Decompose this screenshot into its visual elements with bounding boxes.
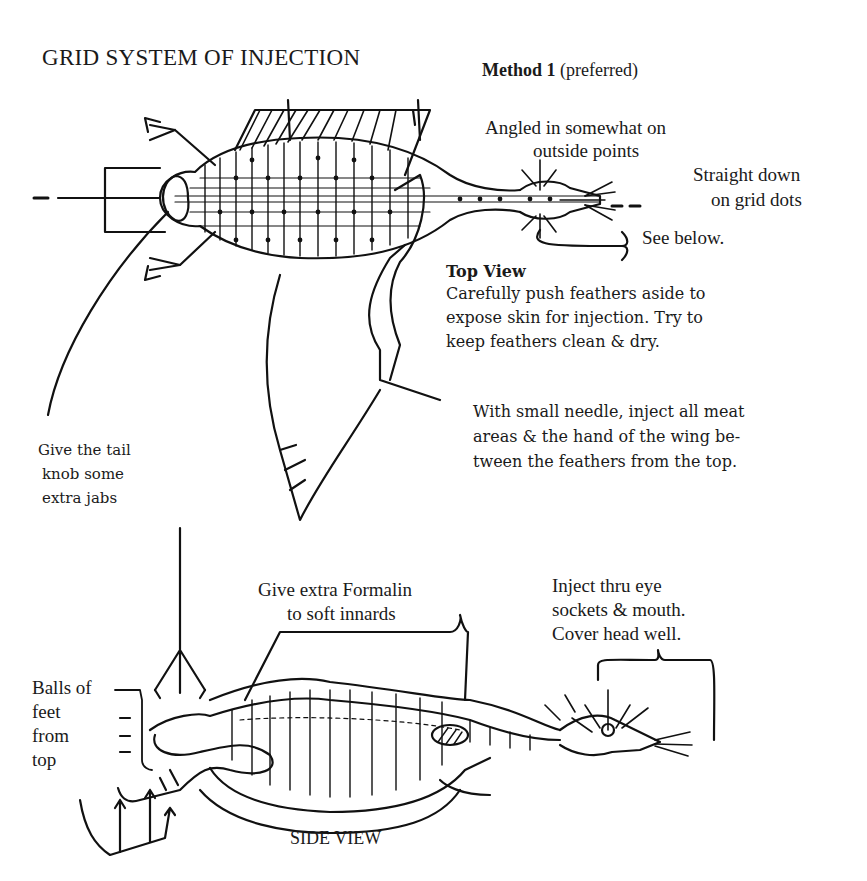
push-feathers-line3: keep feathers clean & dry.	[446, 330, 660, 354]
feet-note-line4: top	[32, 748, 56, 772]
angled-label-line2: outside points	[533, 139, 639, 163]
straight-label-line2: on grid dots	[711, 188, 802, 212]
straight-label-line1: Straight down	[693, 163, 800, 187]
feet-note-line2: feet	[32, 700, 60, 724]
tail-note-line3: extra jabs	[42, 486, 117, 510]
formalin-line2: to soft innards	[287, 602, 396, 626]
needle-line1: With small needle, inject all meat	[473, 399, 744, 424]
feet-note-line1: Balls of	[32, 676, 92, 700]
method-label: Method 1 (preferred)	[482, 58, 638, 82]
needle-line3: tween the feathers from the top.	[473, 449, 737, 474]
method-note: (preferred)	[556, 60, 638, 80]
diagram-title: GRID SYSTEM OF INJECTION	[42, 46, 360, 70]
eye-note-line3: Cover head well.	[552, 622, 681, 646]
eye-note-line2: sockets & mouth.	[552, 598, 686, 622]
see-below-label: See below.	[642, 226, 724, 250]
formalin-line1: Give extra Formalin	[258, 578, 412, 602]
eye-note-line1: Inject thru eye	[552, 574, 662, 598]
push-feathers-line1: Carefully push feathers aside to	[446, 282, 705, 306]
tail-note-line1: Give the tail	[38, 438, 131, 462]
top-view-heading: Top View	[446, 260, 526, 284]
tail-note-line2: knob some	[42, 462, 124, 486]
push-feathers-line2: expose skin for injection. Try to	[446, 306, 703, 330]
method-name: Method 1	[482, 60, 556, 80]
side-view-heading: SIDE VIEW	[290, 826, 381, 850]
angled-label-line1: Angled in somewhat on	[485, 116, 666, 140]
feet-note-line3: from	[32, 724, 69, 748]
needle-line2: areas & the hand of the wing be-	[473, 424, 740, 449]
